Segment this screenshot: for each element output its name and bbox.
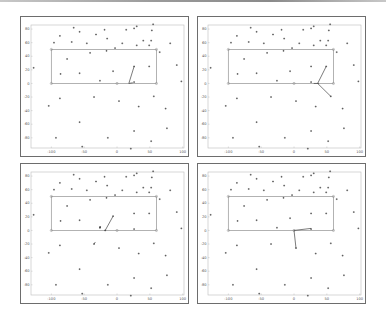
y-tick-label: 0 bbox=[27, 82, 30, 86]
data-point bbox=[325, 213, 327, 215]
data-point bbox=[180, 228, 182, 230]
data-point bbox=[291, 194, 293, 196]
data-point bbox=[243, 58, 245, 60]
data-point bbox=[114, 47, 116, 49]
data-point bbox=[281, 29, 283, 31]
x-tick-label: 100 bbox=[356, 150, 364, 154]
data-point bbox=[313, 191, 315, 193]
data-point bbox=[136, 44, 138, 46]
data-point bbox=[142, 40, 144, 42]
data-point bbox=[236, 35, 238, 37]
data-point bbox=[148, 213, 150, 215]
data-point bbox=[256, 72, 258, 74]
data-point bbox=[313, 25, 315, 27]
data-point bbox=[281, 176, 283, 178]
data-point bbox=[150, 287, 152, 289]
data-point bbox=[33, 214, 35, 216]
data-point bbox=[313, 44, 315, 46]
data-point bbox=[79, 72, 81, 74]
data-point bbox=[256, 121, 258, 123]
data-point bbox=[104, 29, 106, 31]
data-point bbox=[169, 189, 171, 191]
data-point bbox=[236, 182, 238, 184]
data-point bbox=[266, 199, 268, 201]
data-point bbox=[73, 27, 75, 29]
data-point bbox=[289, 70, 291, 72]
y-tick-label: 20 bbox=[202, 68, 207, 72]
data-point bbox=[225, 252, 227, 254]
y-tick-label: -20 bbox=[24, 95, 31, 99]
data-point bbox=[142, 187, 144, 189]
data-point bbox=[151, 30, 153, 32]
x-tick-label: 0 bbox=[293, 150, 296, 154]
y-tick-label: 40 bbox=[202, 201, 207, 205]
data-point bbox=[55, 284, 57, 286]
y-tick-label: 40 bbox=[25, 201, 30, 205]
data-point bbox=[59, 97, 61, 99]
data-point bbox=[353, 64, 355, 66]
data-point bbox=[232, 284, 234, 286]
data-point bbox=[118, 247, 120, 249]
data-point bbox=[159, 51, 161, 53]
data-point bbox=[79, 268, 81, 270]
data-point bbox=[165, 255, 167, 257]
data-point bbox=[302, 176, 304, 178]
data-point bbox=[48, 252, 50, 254]
y-tick-label: 80 bbox=[202, 174, 207, 178]
data-point bbox=[99, 80, 101, 82]
data-point bbox=[60, 73, 62, 75]
data-point bbox=[148, 191, 150, 193]
region-rectangle bbox=[51, 49, 156, 83]
x-tick-label: 0 bbox=[293, 297, 296, 301]
data-point bbox=[230, 42, 232, 44]
x-tick-label: 50 bbox=[325, 297, 330, 301]
x-tick-label: 50 bbox=[148, 150, 153, 154]
data-point bbox=[263, 42, 265, 44]
data-point bbox=[263, 189, 265, 191]
data-point bbox=[73, 174, 75, 176]
data-point bbox=[71, 188, 73, 190]
data-point bbox=[336, 51, 338, 53]
data-point bbox=[106, 38, 108, 40]
data-point bbox=[327, 40, 329, 42]
data-point bbox=[232, 137, 234, 139]
data-point bbox=[136, 172, 138, 174]
data-point bbox=[60, 220, 62, 222]
y-tick-label: 40 bbox=[25, 54, 30, 58]
data-point bbox=[272, 181, 274, 183]
data-point bbox=[256, 268, 258, 270]
data-point bbox=[283, 185, 285, 187]
data-point bbox=[237, 73, 239, 75]
data-point bbox=[313, 172, 315, 174]
y-tick-label: -60 bbox=[201, 122, 208, 126]
data-point bbox=[248, 188, 250, 190]
y-tick-label: -40 bbox=[201, 256, 208, 260]
x-tick-label: -100 bbox=[47, 150, 56, 154]
data-point bbox=[59, 35, 61, 37]
data-point bbox=[315, 253, 317, 255]
data-point bbox=[236, 97, 238, 99]
x-tick-label: 0 bbox=[116, 297, 119, 301]
data-point bbox=[153, 242, 155, 244]
data-point bbox=[210, 214, 212, 216]
data-point bbox=[133, 228, 135, 230]
data-point bbox=[336, 198, 338, 200]
data-point bbox=[295, 247, 297, 249]
data-point bbox=[250, 174, 252, 176]
data-point bbox=[136, 191, 138, 193]
data-point bbox=[256, 178, 258, 180]
path-segment bbox=[294, 230, 296, 248]
data-point bbox=[138, 253, 140, 255]
data-point bbox=[151, 177, 153, 179]
data-point bbox=[86, 42, 88, 44]
data-point bbox=[343, 127, 345, 129]
y-tick-label: 60 bbox=[202, 41, 207, 45]
data-point bbox=[93, 96, 95, 98]
data-point bbox=[66, 58, 68, 60]
data-point bbox=[89, 52, 91, 54]
x-tick-label: 50 bbox=[148, 297, 153, 301]
data-point bbox=[89, 199, 91, 201]
data-point bbox=[225, 105, 227, 107]
scatter-panel-top-right: -100-50050100806040200-20-40-60-80 bbox=[197, 16, 366, 157]
data-point bbox=[250, 27, 252, 29]
